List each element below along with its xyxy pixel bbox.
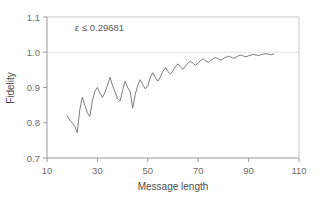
x-tick-label: 110 <box>291 165 306 176</box>
x-tick-label: 30 <box>92 165 103 176</box>
x-tick-label: 90 <box>243 165 254 176</box>
chart-figure: 1030507090110 0.70.80.91.01.1 Message le… <box>0 0 320 197</box>
fidelity-vs-message-length-chart: 1030507090110 0.70.80.91.01.1 Message le… <box>0 0 320 197</box>
y-axis-title: Fidelity <box>5 72 16 104</box>
x-tick-label: 50 <box>143 165 154 176</box>
y-tick-label: 0.8 <box>27 117 40 128</box>
y-tick-label: 0.7 <box>27 153 40 164</box>
y-tick-label: 1.1 <box>27 12 40 23</box>
epsilon-bound-annotation: ε≤ 0.29681 <box>75 22 124 33</box>
epsilon-value: ≤ 0.29681 <box>82 22 124 33</box>
x-tick-label: 10 <box>42 165 53 176</box>
y-tick-label: 1.0 <box>27 47 40 58</box>
x-axis-title: Message length <box>138 181 209 192</box>
y-tick-label: 0.9 <box>27 82 40 93</box>
x-tick-label: 70 <box>193 165 204 176</box>
